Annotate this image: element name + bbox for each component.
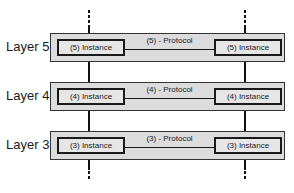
layer-4-left-instance: (4) Instance: [57, 88, 125, 105]
layer-5-left-instance: (5) Instance: [57, 39, 125, 56]
layer-5-label: Layer 5: [6, 39, 49, 55]
layer-5-protocol-label: (5) - Protocol: [125, 36, 214, 46]
layer-3-right-instance: (3) Instance: [214, 137, 282, 154]
layer-3-left-instance: (3) Instance: [57, 137, 125, 154]
layer-3-box: (3) Instance (3) - Protocol (3) Instance: [50, 131, 285, 160]
right-top-continuation-dots: [244, 10, 246, 25]
layer-4-box: (4) Instance (4) - Protocol (4) Instance: [50, 82, 285, 111]
layer-4-protocol-line: [125, 98, 214, 99]
layer-3-label: Layer 3: [6, 137, 49, 153]
layer-4-protocol-label: (4) - Protocol: [125, 85, 214, 95]
right-bottom-continuation-dots: [244, 166, 246, 181]
layer-4-label: Layer 4: [6, 88, 49, 104]
left-bottom-continuation-dots: [88, 166, 90, 181]
layer-4-right-instance: (4) Instance: [214, 88, 282, 105]
layer-5-protocol-line: [125, 49, 214, 50]
layer-3-protocol-label: (3) - Protocol: [125, 134, 214, 144]
left-top-continuation-dots: [88, 10, 90, 25]
layer-5-right-instance: (5) Instance: [214, 39, 282, 56]
layer-3-protocol-line: [125, 147, 214, 148]
layer-5-box: (5) Instance (5) - Protocol (5) Instance: [50, 33, 285, 62]
